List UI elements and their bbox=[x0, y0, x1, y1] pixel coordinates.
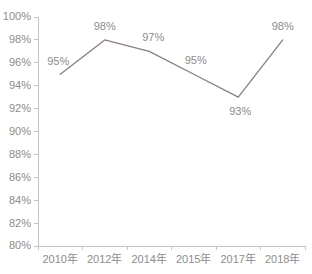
line-chart: 100%98%96%94%92%90%88%86%84%82%80% 2010年… bbox=[0, 0, 312, 274]
x-axis-category-label: 2010年 bbox=[43, 252, 78, 265]
series-group bbox=[60, 40, 283, 97]
y-axis-tick-label: 92% bbox=[9, 102, 31, 114]
y-axis-group: 100%98%96%94%92%90%88%86%84%82%80% bbox=[3, 10, 38, 251]
y-axis-tick-label: 90% bbox=[9, 125, 31, 137]
y-axis-tick-label: 100% bbox=[3, 10, 31, 22]
x-axis-category-label: 2012年 bbox=[87, 252, 122, 265]
x-axis-group: 2010年2012年2014年2015年2017年2018年 bbox=[38, 246, 305, 265]
x-axis-category-label: 2017年 bbox=[221, 252, 256, 265]
y-axis-tick-marks bbox=[34, 17, 38, 246]
y-axis-tick-label: 86% bbox=[9, 171, 31, 183]
y-axis-tick-label: 84% bbox=[9, 194, 31, 206]
x-axis-category-label: 2018年 bbox=[265, 252, 300, 265]
y-axis-tick-labels: 100%98%96%94%92%90%88%86%84%82%80% bbox=[3, 10, 31, 251]
x-axis-category-label: 2014年 bbox=[132, 252, 167, 265]
y-axis-tick-label: 88% bbox=[9, 148, 31, 160]
data-point-label: 98% bbox=[94, 20, 116, 32]
y-axis-tick-label: 96% bbox=[9, 56, 31, 68]
y-axis-tick-label: 82% bbox=[9, 217, 31, 229]
x-axis-tick-labels: 2010年2012年2014年2015年2017年2018年 bbox=[43, 252, 301, 265]
chart-canvas: 100%98%96%94%92%90%88%86%84%82%80% 2010年… bbox=[0, 0, 312, 274]
data-point-label: 93% bbox=[229, 105, 251, 117]
x-axis-category-label: 2015年 bbox=[176, 252, 211, 265]
y-axis-tick-label: 80% bbox=[9, 239, 31, 251]
data-point-label: 95% bbox=[47, 55, 69, 67]
data-point-labels: 95%98%97%95%93%98% bbox=[47, 20, 294, 117]
data-point-label: 97% bbox=[142, 31, 164, 43]
data-point-label: 98% bbox=[272, 20, 294, 32]
y-axis-tick-label: 94% bbox=[9, 79, 31, 91]
x-axis-tick-marks bbox=[38, 246, 305, 250]
data-point-label: 95% bbox=[185, 54, 207, 66]
data-series-line bbox=[60, 40, 283, 97]
y-axis-tick-label: 98% bbox=[9, 33, 31, 45]
